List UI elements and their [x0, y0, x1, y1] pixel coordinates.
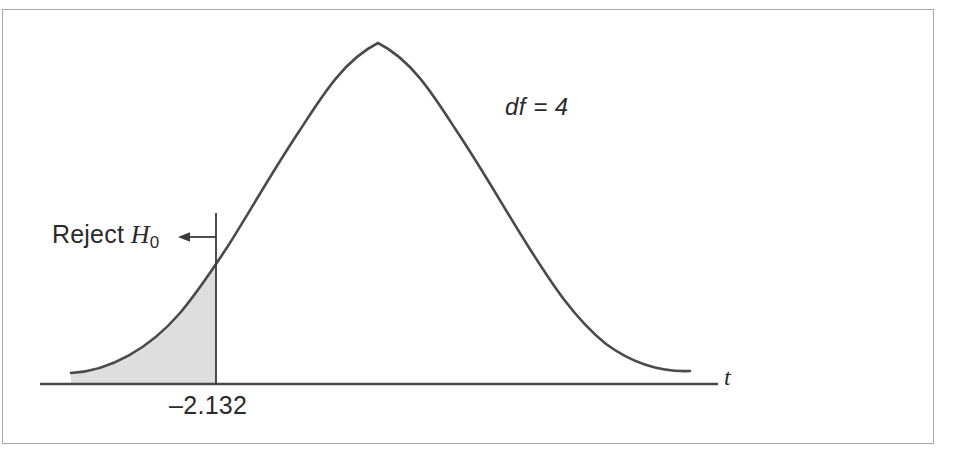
degrees-of-freedom-label: df = 4	[505, 95, 569, 119]
critical-value-tick-label: –2.132	[169, 393, 247, 418]
h-subscript: 0	[150, 233, 159, 252]
null-hypothesis-symbol: H0	[124, 220, 159, 249]
reject-word: Reject	[52, 220, 124, 248]
figure-root: Reject H0 –2.132 df = 4 t	[0, 0, 961, 453]
reject-null-hypothesis-label: Reject H0	[52, 222, 159, 251]
axis-label-t: t	[724, 365, 731, 389]
rejection-region-shaded-area	[71, 263, 216, 384]
t-distribution-curve	[71, 43, 690, 373]
h-letter: H	[131, 220, 150, 249]
reject-region-arrowhead-icon	[178, 232, 190, 242]
